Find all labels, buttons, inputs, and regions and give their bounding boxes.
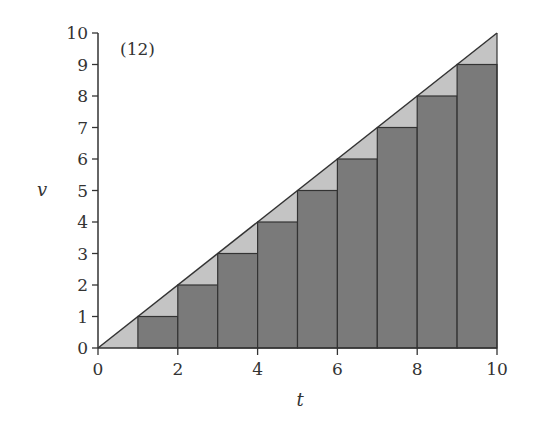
x-tick-label: 8	[412, 359, 423, 379]
y-tick-label: 7	[77, 118, 88, 138]
y-tick-label: 10	[66, 23, 88, 43]
bar	[178, 285, 218, 348]
bar	[218, 254, 258, 349]
x-axis-label: t	[296, 389, 304, 410]
plot-area	[98, 33, 497, 348]
x-tick-label: 0	[93, 359, 104, 379]
panel-label: (12)	[120, 39, 155, 59]
y-tick-label: 4	[77, 212, 88, 232]
chart-svg: 0246810012345678910 (12) t v	[0, 0, 549, 425]
y-tick-label: 3	[77, 244, 88, 264]
bar	[457, 65, 497, 349]
bar	[258, 222, 298, 348]
y-tick-label: 2	[77, 275, 88, 295]
bar	[337, 159, 377, 348]
bar	[138, 317, 178, 349]
y-tick-label: 0	[77, 338, 88, 358]
bar	[377, 128, 417, 349]
y-tick-label: 1	[77, 307, 88, 327]
y-tick-label: 5	[77, 181, 88, 201]
y-tick-label: 6	[77, 149, 88, 169]
bar	[298, 191, 338, 349]
x-tick-label: 6	[332, 359, 343, 379]
y-tick-label: 8	[77, 86, 88, 106]
x-tick-label: 10	[486, 359, 508, 379]
x-tick-label: 4	[252, 359, 263, 379]
x-tick-label: 2	[172, 359, 183, 379]
y-tick-label: 9	[77, 55, 88, 75]
bar	[417, 96, 457, 348]
y-axis-label: v	[37, 179, 47, 200]
